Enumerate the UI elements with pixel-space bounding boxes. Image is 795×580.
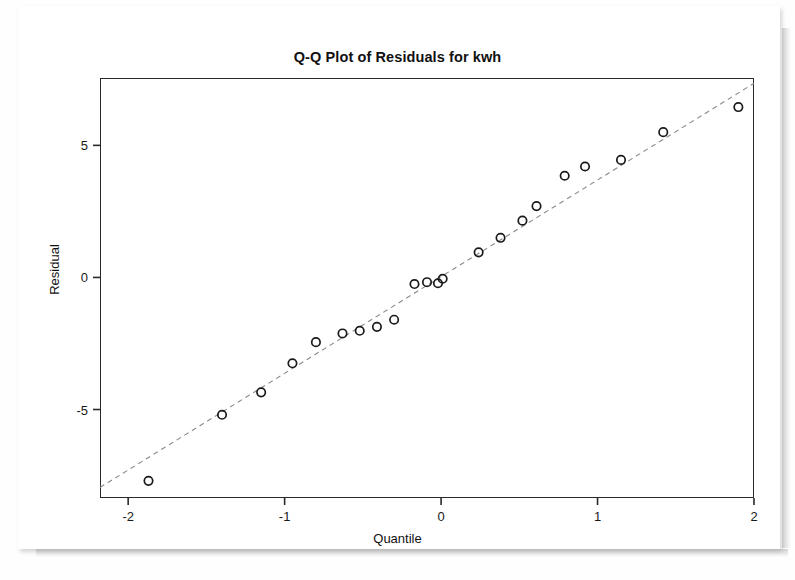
- y-tick-label: 5: [52, 138, 88, 153]
- data-point-marker: [734, 103, 742, 111]
- data-point-marker: [410, 280, 418, 288]
- data-point-marker: [423, 278, 431, 286]
- figure-page: Q-Q Plot of Residuals for kwh -2-101250-…: [0, 0, 795, 580]
- plot-area: [100, 78, 754, 498]
- x-tick-label: 0: [437, 509, 444, 524]
- x-tick-label: -1: [279, 509, 291, 524]
- chart-title: Q-Q Plot of Residuals for kwh: [0, 49, 795, 65]
- x-axis-label: Quantile: [0, 531, 795, 546]
- x-tick-label: -2: [122, 509, 134, 524]
- y-axis-label: Residual: [47, 210, 62, 330]
- data-point-marker: [532, 202, 540, 210]
- x-tick-label: 2: [750, 509, 757, 524]
- scan-edge-bottom: [36, 549, 788, 557]
- scatter-plot-canvas: [100, 78, 754, 498]
- data-point-marker: [288, 359, 296, 367]
- data-point-marker: [356, 327, 364, 335]
- data-point-marker: [390, 315, 398, 323]
- data-point-marker: [338, 329, 346, 337]
- data-point-marker: [474, 248, 482, 256]
- x-tick-label: 1: [594, 509, 601, 524]
- data-point-marker: [312, 338, 320, 346]
- data-point-marker: [659, 128, 667, 136]
- data-point-marker: [257, 388, 265, 396]
- data-point-marker: [373, 323, 381, 331]
- data-point-marker: [496, 234, 504, 242]
- data-point-marker: [218, 411, 226, 419]
- data-point-marker: [518, 216, 526, 224]
- data-point-marker: [581, 162, 589, 170]
- reference-line: [100, 83, 754, 487]
- data-point-marker: [560, 172, 568, 180]
- data-point-marker: [144, 477, 152, 485]
- y-tick-label: -5: [52, 402, 88, 417]
- data-point-marker: [617, 156, 625, 164]
- scan-edge-right: [782, 28, 791, 548]
